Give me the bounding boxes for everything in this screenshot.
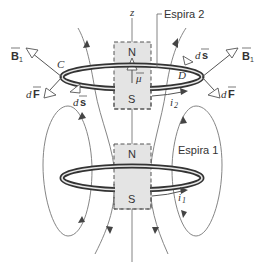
magnet-lower-north-label: N <box>128 148 136 160</box>
magnet-lower-south-label-front: S <box>128 193 135 205</box>
current-1-label: i <box>178 191 181 203</box>
ds-right-head <box>183 56 193 65</box>
field-arrow-lower-left <box>106 226 113 234</box>
current-2-arrow <box>152 92 182 96</box>
df-left-label: d <box>26 88 32 100</box>
df-left-shaft <box>50 77 62 90</box>
svg-text:F: F <box>228 88 235 100</box>
df-right-label: d <box>221 88 227 100</box>
field-arrow-right-loop <box>181 210 187 218</box>
svg-text:1: 1 <box>250 56 254 63</box>
field-arrow-lower-right <box>152 227 159 234</box>
z-axis-label: z <box>129 6 135 18</box>
loop1-label: Espira 1 <box>178 144 218 156</box>
dipole-loops-diagram: N S N S S S <box>0 0 265 274</box>
svg-text:2: 2 <box>174 101 178 110</box>
svg-text:F: F <box>33 88 40 100</box>
df-right-shaft <box>202 77 214 90</box>
mu-label: μ <box>135 72 142 84</box>
svg-text:1: 1 <box>182 196 186 205</box>
point-d-label: D <box>177 69 186 81</box>
current-2-label: i <box>170 96 173 108</box>
svg-text:1: 1 <box>19 56 23 63</box>
point-c-label: C <box>57 58 65 70</box>
field-arrow-upper-right <box>172 38 178 48</box>
svg-text:s: s <box>202 49 208 61</box>
magnet-upper-south-label-front: S <box>128 93 135 105</box>
loop2-label: Espira 2 <box>164 8 204 20</box>
svg-text:s: s <box>80 96 86 108</box>
ds-left-label: d <box>73 96 79 108</box>
b1-right-label: B <box>242 50 250 62</box>
b1-left-label: B <box>11 50 19 62</box>
ds-right-label: d <box>195 49 201 61</box>
magnet-upper-north-label: N <box>128 46 136 58</box>
